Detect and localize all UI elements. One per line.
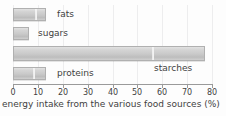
x-axis-tick-label: 40 [102,88,124,97]
x-axis-title: energy intake from the various food sour… [2,99,220,110]
bar-label-sugars: sugars [38,28,68,39]
bar-starches [13,46,205,61]
x-axis-tick-label: 10 [27,88,49,97]
bar-label-starches: starches [154,63,192,74]
bar-label-fats: fats [57,9,74,20]
bar-label-proteins: proteins [57,68,94,79]
bar-chart-figure: fats sugars starches proteins 0 10 20 30… [0,0,226,116]
bar-segment-divider [36,9,37,20]
gridline [212,5,213,84]
x-axis-tick-label: 80 [201,88,223,97]
x-axis-tick-label: 60 [151,88,173,97]
x-axis-tick-label: 20 [52,88,74,97]
x-axis-tick-label: 70 [176,88,198,97]
bar-segment-divider [34,68,35,79]
x-axis-tick-label: 30 [77,88,99,97]
bar-proteins [13,67,46,80]
plot-area: fats sugars starches proteins [13,5,212,84]
clipped-heading-text [62,0,152,4]
gridline [137,5,138,84]
x-axis-tick-label: 0 [2,88,24,97]
bar-fats [13,8,46,21]
x-axis-tick-label: 50 [126,88,148,97]
bar-sugars [13,27,29,40]
bar-segment-divider [153,47,154,60]
gridline [113,5,114,84]
